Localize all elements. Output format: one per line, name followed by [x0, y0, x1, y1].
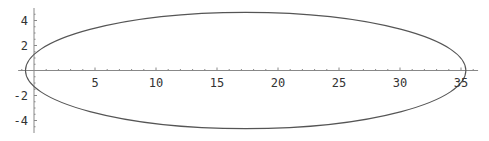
- y-tick-label: -2: [14, 89, 28, 103]
- x-tick-label: 25: [332, 76, 346, 90]
- x-tick-label: 20: [271, 76, 285, 90]
- x-tick-label: 15: [210, 76, 224, 90]
- chart-plot: 5101520253035-4-224: [0, 0, 489, 141]
- x-tick-label: 10: [149, 76, 163, 90]
- x-tick-label: 30: [393, 76, 407, 90]
- y-tick-label: -4: [14, 114, 28, 128]
- y-tick-label: 4: [21, 14, 28, 28]
- axes: [18, 8, 478, 133]
- x-tick-label: 5: [91, 76, 98, 90]
- x-tick-label: 35: [454, 76, 468, 90]
- y-tick-label: 2: [21, 39, 28, 53]
